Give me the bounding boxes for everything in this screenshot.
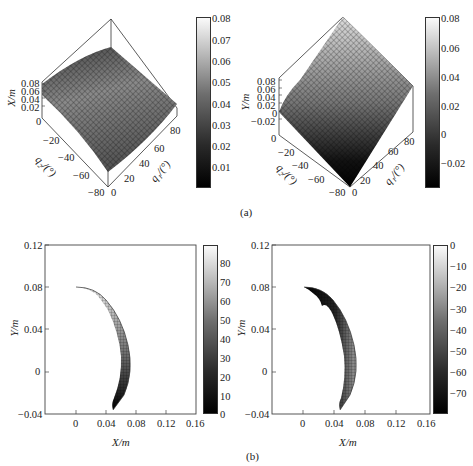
cb-tick: 0.01 — [212, 162, 230, 173]
cb-tick: 0.04 — [212, 99, 230, 110]
x-tick: 0.04 — [97, 418, 115, 429]
x-axis-label: X/m — [112, 436, 130, 448]
cb-tick: 0.06 — [441, 43, 459, 54]
y-axis-label: Y/m — [8, 319, 20, 336]
x-tick: 0.12 — [157, 418, 175, 429]
cb-tick: 20 — [220, 372, 231, 383]
cb-tick: 0.04 — [441, 72, 459, 83]
colorbar-x — [196, 17, 211, 188]
cb-tick: 0.06 — [212, 56, 230, 67]
q1-tick: 20 — [360, 175, 371, 186]
q1-tick: 40 — [373, 160, 384, 171]
q2-tick: −60 — [73, 170, 89, 181]
panel-label-a: (a) — [240, 206, 252, 218]
cb-tick: −30 — [450, 304, 466, 315]
cb-tick: 30 — [220, 353, 231, 364]
cb-tick: 80 — [220, 258, 231, 269]
cb-tick: 0.03 — [212, 120, 230, 131]
cb-tick: 0.05 — [212, 77, 230, 88]
y-tick: 0.08 — [251, 282, 269, 293]
z-tick: 0.02 — [21, 102, 39, 113]
q1-tick: 0 — [352, 187, 357, 198]
q1-tick: 60 — [154, 143, 165, 154]
cb-tick: 50 — [220, 315, 231, 326]
cb-tick: −20 — [450, 282, 466, 293]
cb-tick: −40 — [450, 325, 466, 336]
cb-tick: 0.02 — [441, 101, 459, 112]
cb-tick: 0.08 — [212, 13, 230, 24]
x-tick: 0.12 — [387, 418, 405, 429]
cb-tick: 60 — [220, 296, 231, 307]
colorbar-q1 — [203, 245, 218, 414]
cb-tick: 0.02 — [212, 141, 230, 152]
y-tick: 0.08 — [24, 282, 42, 293]
q2-tick: −80 — [88, 187, 104, 198]
cb-tick: −70 — [450, 388, 466, 399]
workspace-plot-q2 — [272, 245, 430, 414]
x-tick: 0.16 — [417, 418, 435, 429]
z-axis-label: X/m — [5, 89, 17, 107]
y-tick: 0.12 — [251, 240, 269, 251]
q1-tick: 80 — [404, 136, 415, 147]
cb-tick: 0.08 — [441, 13, 459, 24]
cb-tick: 10 — [220, 391, 231, 402]
q2-tick: −40 — [58, 152, 74, 163]
x-tick: 0.08 — [127, 418, 145, 429]
q2-tick: −20 — [43, 135, 59, 146]
cb-tick: 0 — [450, 240, 455, 251]
cb-tick: −10 — [450, 261, 466, 272]
y-tick: −0.04 — [245, 409, 269, 420]
cb-tick: −50 — [450, 346, 466, 357]
q1-tick: 40 — [139, 158, 150, 169]
q2-tick: 0 — [271, 133, 276, 144]
cb-tick: 40 — [220, 334, 231, 345]
x-tick: 0 — [73, 418, 78, 429]
cb-tick: −0.02 — [441, 158, 465, 169]
cb-tick: 0.07 — [212, 35, 230, 46]
y-tick: −0.04 — [18, 409, 42, 420]
cb-tick: 70 — [220, 277, 231, 288]
y-tick: 0.12 — [24, 240, 42, 251]
y-tick: 0.04 — [24, 324, 42, 335]
figure-canvas — [0, 0, 473, 466]
z-axis-label: Y/m — [239, 93, 251, 110]
x-tick: 0 — [300, 418, 305, 429]
q2-tick: −60 — [308, 174, 324, 185]
y-tick: 0 — [262, 366, 267, 377]
q2-tick: −20 — [278, 147, 294, 158]
cb-tick: 0 — [220, 409, 225, 420]
cb-tick: −60 — [450, 367, 466, 378]
panel-label-b: (b) — [246, 450, 259, 462]
y-axis-label: Y/m — [235, 319, 247, 336]
x-tick: 0.04 — [325, 418, 343, 429]
q1-tick: 0 — [111, 187, 116, 198]
y-tick: 0 — [35, 366, 40, 377]
q2-tick: 0 — [36, 116, 41, 127]
colorbar-q2 — [433, 245, 448, 414]
workspace-plot-q1 — [45, 245, 196, 414]
q1-tick: 80 — [170, 125, 181, 136]
z-tick: −0.02 — [251, 116, 275, 127]
x-tick: 0.08 — [356, 418, 374, 429]
q2-tick: −40 — [292, 160, 308, 171]
x-tick: 0.16 — [186, 418, 204, 429]
q1-tick: 60 — [388, 146, 399, 157]
cb-tick: 0 — [441, 129, 446, 140]
colorbar-y — [425, 17, 440, 188]
q1-tick: 20 — [124, 173, 135, 184]
q2-tick: −80 — [329, 187, 345, 198]
x-axis-label: X/m — [339, 436, 357, 448]
y-tick: 0.04 — [251, 324, 269, 335]
